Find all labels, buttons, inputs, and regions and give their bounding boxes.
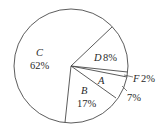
slice-label-c-name: C [36, 47, 44, 58]
slice-label-f-value: 2% [141, 73, 155, 84]
pie-chart: C 62% D 8% F 2% A 7% B 17% [0, 0, 163, 130]
slice-label-c-value: 62% [30, 60, 50, 71]
slice-label-f-name: F [132, 73, 140, 84]
slice-label-b-value: 17% [77, 98, 97, 109]
slice-label-d-name: D [93, 52, 102, 63]
slice-label-b-name: B [81, 85, 88, 96]
slice-label-d-value: 8% [103, 52, 117, 63]
slice-label-a-value: 7% [127, 92, 141, 103]
slice-label-a-name: A [97, 75, 105, 86]
